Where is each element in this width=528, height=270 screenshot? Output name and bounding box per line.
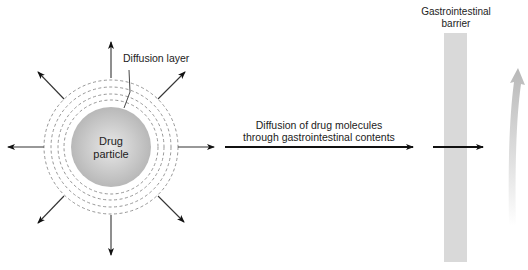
barrier-label-line1: Gastrointestinal [421,6,490,17]
transport-label-line2: through gastrointestinal contents [243,131,395,143]
particle-label-line2: particle [93,148,128,160]
absorption-arrow-icon [509,68,525,225]
arrow-down-right-icon [158,196,184,222]
drug-particle [71,107,151,187]
arrow-down-left-icon [38,196,64,223]
dissolution-diagram: Diffusion layer Drug particle Diffusion … [0,0,528,270]
transport-label-line1: Diffusion of drug molecules [256,119,382,131]
arrow-up-left-icon [38,72,64,99]
arrow-up-right-icon [158,72,185,99]
barrier-label-line2: barrier [442,18,472,29]
particle-label-line1: Drug [99,135,123,147]
diffusion-layer-label: Diffusion layer [123,52,190,64]
